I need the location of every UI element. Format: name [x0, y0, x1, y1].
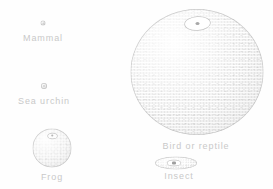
outline-ring-mammal — [41, 21, 46, 26]
egg-label-mammal: Mammal — [23, 33, 63, 43]
sphere-shading-frog — [33, 129, 72, 168]
egg-label-insect: Insect — [164, 171, 193, 181]
animal-pole-dot-frog — [51, 135, 54, 137]
stipple-texture-bird-or-reptile — [131, 9, 264, 135]
stipple-texture-insect — [155, 157, 197, 170]
nucleus-dot-insect — [172, 161, 176, 164]
stipple-texture-sea-urchin — [41, 83, 47, 89]
outline-ring-bird-or-reptile — [131, 9, 264, 135]
sphere-shading-bird-or-reptile — [131, 9, 264, 135]
nucleus-patch-insect — [168, 161, 181, 166]
nucleus-dot-sea-urchin — [43, 85, 45, 87]
animal-pole-patch-frog — [48, 134, 57, 139]
egg-label-frog: Frog — [41, 172, 63, 182]
outline-ring-frog — [33, 129, 72, 168]
egg-mammal — [41, 21, 46, 26]
sphere-shading-sea-urchin — [41, 83, 47, 89]
blastodisc-patch-bird-or-reptile — [184, 16, 210, 31]
outline-ring-sea-urchin — [41, 83, 47, 89]
egg-sea-urchin — [41, 83, 47, 89]
stipple-texture-mammal — [41, 21, 46, 26]
egg-insect — [155, 157, 197, 170]
egg-bird-or-reptile — [131, 9, 264, 135]
egg-label-sea-urchin: Sea urchin — [18, 96, 70, 106]
stipple-texture-frog — [33, 129, 72, 168]
nucleus-dot-mammal — [42, 22, 44, 24]
egg-label-bird-or-reptile: Bird or reptile — [162, 141, 229, 151]
egg-frog — [33, 129, 72, 168]
sphere-shading-insect — [155, 157, 197, 170]
egg-size-comparison-figure: Mammal Sea urchin Frog Bird or reptile I… — [0, 0, 273, 189]
blastodisc-dot-bird-or-reptile — [196, 22, 200, 25]
outline-ring-insect — [155, 157, 197, 170]
sphere-shading-mammal — [41, 21, 46, 26]
